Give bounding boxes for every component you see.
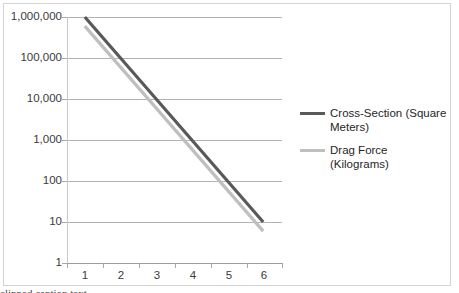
legend-swatch-icon bbox=[300, 112, 325, 115]
caption-line: clipped caption text bbox=[0, 287, 459, 293]
clipped-caption: clipped caption text bbox=[0, 287, 459, 293]
legend-entry-drag-force: Drag Force (Kilograms) bbox=[300, 143, 448, 171]
legend-label: Cross-Section (Square Meters) bbox=[330, 106, 448, 134]
chart-legend: Cross-Section (Square Meters) Drag Force… bbox=[300, 106, 448, 180]
series-line-drag-force bbox=[85, 26, 263, 231]
legend-entry-cross-section: Cross-Section (Square Meters) bbox=[300, 106, 448, 134]
legend-label: Drag Force (Kilograms) bbox=[330, 143, 448, 171]
legend-swatch-icon bbox=[300, 149, 325, 152]
series-line-cross-section bbox=[85, 17, 263, 222]
